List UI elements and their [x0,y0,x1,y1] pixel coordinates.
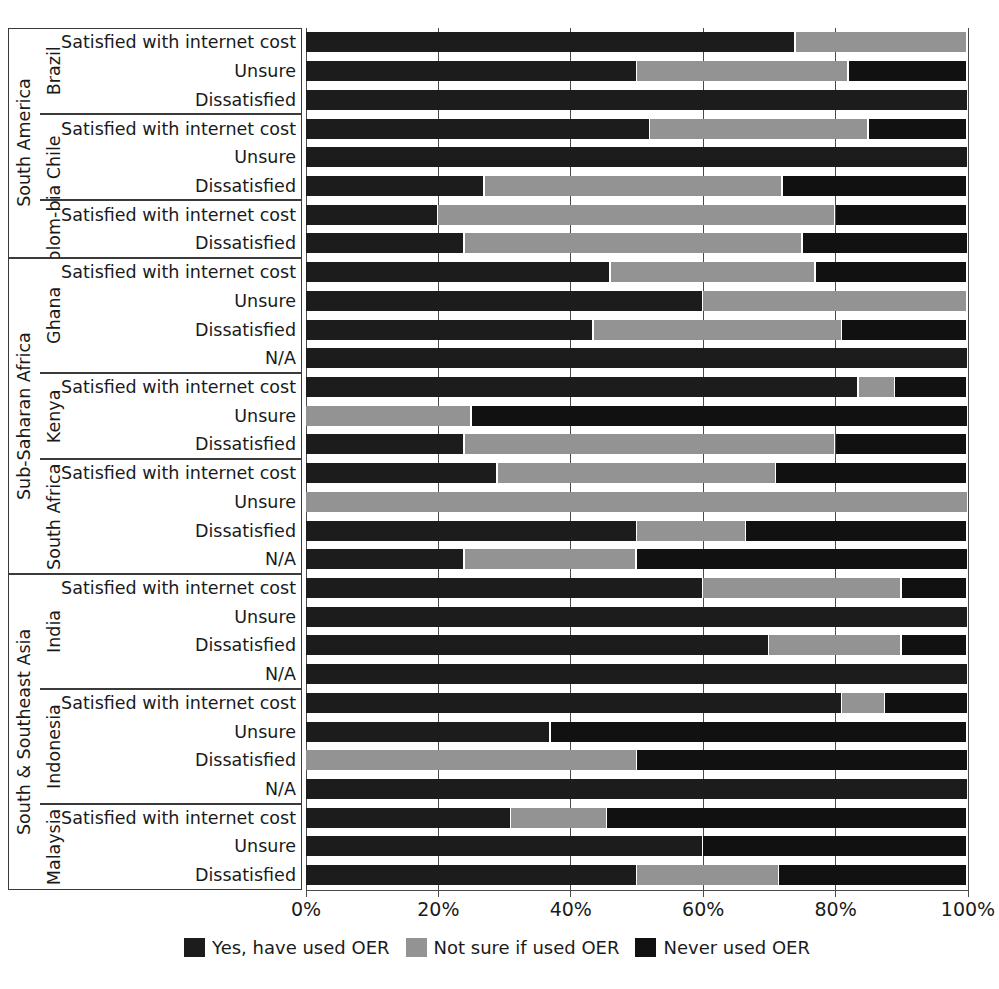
x-axis-tick-labels: 0%20%40%60%80%100% [0,898,994,924]
bar-segment [306,549,463,569]
bar-segment [306,262,609,282]
bar-segment [783,176,967,196]
stacked-bar [306,377,968,397]
stacked-bar [306,291,968,311]
row-label: Unsure [234,147,296,167]
chart-row: Satisfied with internet cost [0,803,994,832]
stacked-bar [306,434,968,454]
stacked-bar [306,722,968,742]
stacked-bar [306,262,968,282]
row-label: Dissatisfied [195,176,296,196]
bar-segment [895,377,966,397]
stacked-bar [306,233,968,253]
bar-segment [607,808,966,828]
bar-segment [306,750,636,770]
chart-row: Satisfied with internet cost [0,28,994,57]
bar-segment [902,578,967,598]
stacked-bar [306,320,968,340]
chart-row: Unsure [0,832,994,861]
stacked-bar [306,61,968,81]
legend-swatch-icon [406,938,427,957]
bar-segment [849,61,967,81]
bar-segment [746,521,966,541]
bar-segment [836,434,967,454]
chart-row: Dissatisfied [0,229,994,258]
row-label: Dissatisfied [195,521,296,541]
bar-segment [306,836,702,856]
x-axis-tick [570,890,571,897]
bar-segment [842,693,884,713]
chart-row: Satisfied with internet cost [0,114,994,143]
chart-row: Dissatisfied [0,746,994,775]
bar-segment [637,549,967,569]
bar-segment [703,291,966,311]
row-label: Unsure [234,406,296,426]
bar-segment [511,808,605,828]
bar-segment [306,205,437,225]
row-label: Dissatisfied [195,635,296,655]
legend-item[interactable]: Yes, have used OER [184,937,389,958]
chart-row: Unsure [0,57,994,86]
bar-segment [816,262,967,282]
stacked-bar [306,205,968,225]
bar-segment [306,664,967,684]
x-tick-label: 40% [531,898,611,920]
bar-segment [902,635,967,655]
chart-row: Satisfied with internet cost [0,459,994,488]
bar-segment [306,377,857,397]
bar-rows: Satisfied with internet costUnsureDissat… [0,28,994,890]
chart-row: Dissatisfied [0,861,994,890]
row-label: Satisfied with internet cost [61,808,296,828]
x-tick-label: 0% [266,898,346,920]
bar-segment [306,61,636,81]
bar-segment [306,406,470,426]
stacked-bar [306,521,968,541]
chart-row: Dissatisfied [0,85,994,114]
stacked-bar [306,549,968,569]
bar-segment [796,32,967,52]
chart-row: Dissatisfied [0,631,994,660]
legend-label: Never used OER [663,937,809,958]
x-tick-label: 20% [398,898,478,920]
chart-row: Satisfied with internet cost [0,200,994,229]
bar-segment [306,722,549,742]
bar-segment [306,607,967,627]
row-label: N/A [265,549,296,569]
bar-segment [306,90,967,110]
chart-row: Unsure [0,602,994,631]
chart-row: Dissatisfied [0,430,994,459]
stacked-bar [306,693,968,713]
chart-row: Unsure [0,717,994,746]
row-label: Dissatisfied [195,320,296,340]
bar-segment [306,635,768,655]
bar-segment [306,463,496,483]
bar-segment [306,578,702,598]
row-label: Dissatisfied [195,434,296,454]
chart-row: Satisfied with internet cost [0,574,994,603]
stacked-bar [306,578,968,598]
legend-swatch-icon [184,938,205,957]
row-label: Dissatisfied [195,750,296,770]
bar-segment [306,291,702,311]
chart-legend: Yes, have used OERNot sure if used OERNe… [0,932,994,962]
bar-segment [306,521,636,541]
legend-item[interactable]: Never used OER [635,937,809,958]
legend-item[interactable]: Not sure if used OER [406,937,620,958]
stacked-bar [306,463,968,483]
bar-segment [306,176,483,196]
chart-row: Satisfied with internet cost [0,373,994,402]
chart-row: N/A [0,545,994,574]
bar-segment [465,434,834,454]
bar-segment [498,463,775,483]
chart-row: Unsure [0,143,994,172]
bar-segment [703,578,900,598]
stacked-bar [306,865,968,885]
bar-segment [703,836,966,856]
bar-segment [779,865,966,885]
bar-segment [803,233,967,253]
x-tick-label: 60% [663,898,743,920]
legend-label: Not sure if used OER [434,937,620,958]
bar-segment [769,635,900,655]
bar-segment [472,406,967,426]
